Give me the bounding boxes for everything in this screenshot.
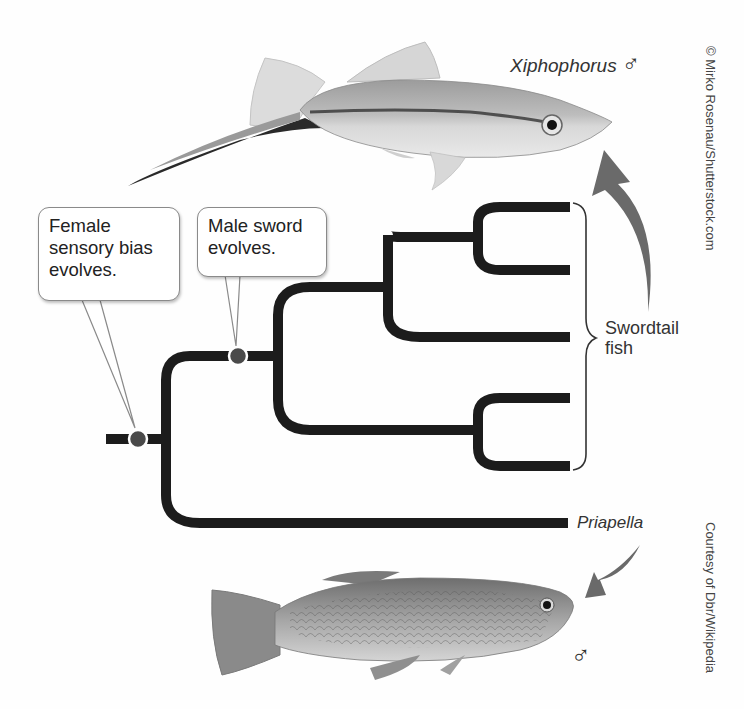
callout-line: evolves. xyxy=(49,259,169,281)
credit-text: Courtesy of Dbr/Wikipedia xyxy=(703,522,718,673)
priapella-male-symbol-icon: ♂ xyxy=(571,640,591,671)
male-symbol-icon: ♂ xyxy=(622,50,640,77)
clade-label-line: Swordtail xyxy=(605,318,679,338)
male-sword-pointer xyxy=(225,275,240,346)
node-c-lower xyxy=(388,287,570,337)
xiphophorus-label: Xiphophorus ♂ xyxy=(510,50,640,78)
male-sword-event-dot xyxy=(229,347,247,365)
top-photo-credit: © Mirko Rosenau/Shutterstock.com xyxy=(703,46,718,251)
figure-canvas: Female sensory bias evolves. Male sword … xyxy=(0,0,744,709)
female-bias-pointer xyxy=(82,300,135,428)
outgroup-name: Priapella xyxy=(577,513,643,532)
clade-label-line: fish xyxy=(605,338,679,358)
callout-line: Female xyxy=(49,215,169,237)
male-symbol-icon: ♂ xyxy=(571,640,591,670)
node-e-lower xyxy=(478,430,570,466)
callout-line: Male sword xyxy=(208,215,316,237)
node-b-upper xyxy=(278,287,388,356)
node-a-lower xyxy=(166,439,568,523)
female-bias-callout: Female sensory bias evolves. xyxy=(38,207,180,301)
node-d-lower xyxy=(478,237,570,270)
node-b-lower xyxy=(278,356,478,430)
credit-text: © Mirko Rosenau/Shutterstock.com xyxy=(703,46,718,251)
node-a-upper xyxy=(166,356,278,439)
arrow-up-to-xiphophorus xyxy=(592,150,651,312)
callout-line: sensory bias xyxy=(49,237,169,259)
swordtail-fish-label: Swordtail fish xyxy=(605,318,679,358)
male-sword-callout: Male sword evolves. xyxy=(197,207,327,277)
genus-name: Xiphophorus xyxy=(510,55,617,76)
node-e-upper xyxy=(478,398,570,430)
node-c-upper xyxy=(388,235,478,287)
arrow-down-to-priapella xyxy=(585,545,640,598)
priapella-label: Priapella xyxy=(577,513,643,533)
bottom-photo-credit: Courtesy of Dbr/Wikipedia xyxy=(703,522,718,673)
female-bias-event-dot xyxy=(129,430,147,448)
callout-line: evolves. xyxy=(208,237,316,259)
swordtail-brace xyxy=(573,203,596,470)
node-d-upper xyxy=(478,207,570,237)
